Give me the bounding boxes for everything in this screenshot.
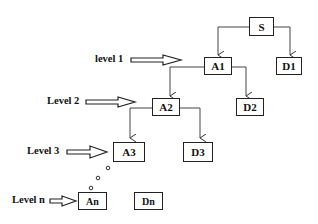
level-3-label: Level 3 [27,145,59,156]
edge-a2-a3 [130,108,152,138]
node-d3: D3 [183,142,213,162]
level-1-arrow-icon [131,55,181,65]
level-n-label: Level n [12,194,45,205]
level-1-label: level 1 [95,53,123,64]
level-2-arrow-icon [86,97,135,107]
node-dn: Dn [134,192,163,210]
tree-diagram: S A1 D1 A2 D2 A3 D3 An Dn level 1 Level … [0,0,318,224]
edge-s-d1 [274,27,290,55]
edge-a1-d2 [232,67,246,96]
node-a3: A3 [113,142,145,162]
edge-a1-a2 [170,67,204,96]
edge-a2-d3 [180,108,200,138]
edge-s-a1 [218,27,249,55]
continuation-dot-icon [96,176,100,180]
node-a2: A2 [152,98,180,116]
continuation-dot-icon [89,186,93,190]
level-3-arrow-icon [67,146,107,158]
continuation-dot-icon [106,166,110,170]
level-2-label: Level 2 [47,95,79,106]
node-a1: A1 [204,57,232,75]
node-d2: D2 [236,98,264,116]
level-n-arrow-icon [50,196,76,206]
node-an: An [78,192,107,210]
node-d1: D1 [276,57,302,75]
node-s: S [249,17,274,36]
